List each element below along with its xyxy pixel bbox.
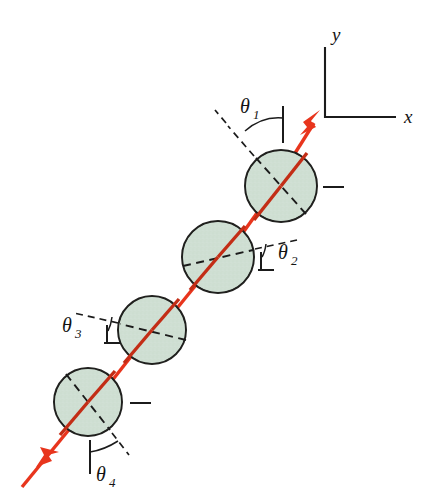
polarizer-1-angle-arc xyxy=(245,118,283,131)
polarizer-1-axis-extension-far xyxy=(215,110,226,123)
polarizer-2-theta-subscript: 2 xyxy=(291,253,298,268)
polarizer-1-theta-subscript: 1 xyxy=(253,107,260,122)
polarizer-3-group[interactable]: θ 3 xyxy=(62,296,186,364)
polarizer-1-axis-extension xyxy=(228,126,254,156)
polarizer-diagram-figure: y x xyxy=(0,0,435,500)
polarizer-4-theta-subscript: 4 xyxy=(109,475,116,490)
polarizer-4-theta-label: θ xyxy=(96,463,106,485)
coordinate-axes: y x xyxy=(325,24,413,127)
polarizer-4-angle-arc xyxy=(90,441,118,452)
polarizer-2-theta-label: θ xyxy=(278,241,288,263)
x-axis-label: x xyxy=(403,106,413,127)
axes-corner-line xyxy=(325,47,396,117)
polarizer-2-group[interactable]: θ 2 xyxy=(182,221,298,293)
polarizer-3-theta-label: θ xyxy=(62,314,72,336)
polarizer-2-axis-extension xyxy=(255,240,297,249)
beam-exit-arrowhead xyxy=(36,447,59,467)
polarizer-3-theta-subscript: 3 xyxy=(74,326,82,341)
polarizer-2-angle-arc xyxy=(262,244,266,257)
polarizer-3-angle-arc xyxy=(108,317,112,331)
polarizer-1-theta-label: θ xyxy=(240,95,250,117)
diagram-canvas: y x xyxy=(0,0,435,500)
y-axis-label: y xyxy=(330,24,341,45)
polarizer-4-axis-extension xyxy=(112,433,129,455)
polarizer-4-group[interactable]: θ 4 xyxy=(54,368,151,490)
